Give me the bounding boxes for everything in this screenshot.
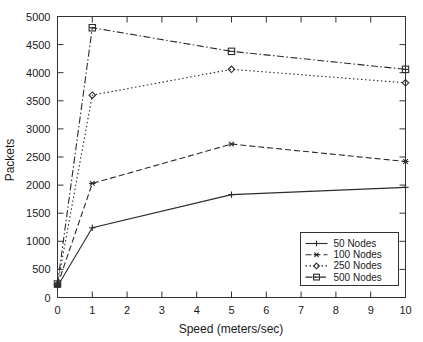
y-tick-label: 2500 (26, 151, 50, 163)
legend-label: 250 Nodes (334, 260, 382, 271)
x-tick-label: 1 (89, 304, 95, 316)
x-tick-label: 0 (54, 304, 60, 316)
y-tick-label: 1000 (26, 235, 50, 247)
chart-container: 0500100015002000250030003500400045005000… (0, 0, 423, 342)
x-tick-label: 8 (333, 304, 339, 316)
x-tick-label: 2 (124, 304, 130, 316)
chart-background (0, 0, 423, 342)
legend-label: 500 Nodes (334, 272, 382, 283)
x-tick-label: 3 (159, 304, 165, 316)
x-tick-label: 5 (228, 304, 234, 316)
y-tick-label: 5000 (26, 11, 50, 23)
y-tick-label: 500 (32, 263, 50, 275)
x-tick-label: 4 (194, 304, 200, 316)
x-tick-label: 9 (368, 304, 374, 316)
y-tick-label: 2000 (26, 179, 50, 191)
y-tick-label: 4000 (26, 67, 50, 79)
x-tick-label: 10 (399, 304, 411, 316)
legend-label: 100 Nodes (334, 249, 382, 260)
legend: 50 Nodes100 Nodes250 Nodes500 Nodes (301, 233, 399, 286)
y-tick-label: 1500 (26, 207, 50, 219)
y-tick-label: 3000 (26, 123, 50, 135)
x-axis-title: Speed (meters/sec) (179, 322, 284, 336)
x-tick-label: 7 (298, 304, 304, 316)
y-tick-label: 4500 (26, 39, 50, 51)
y-tick-label: 0 (44, 292, 50, 304)
y-tick-label: 3500 (26, 95, 50, 107)
y-axis-title: Packets (3, 139, 17, 182)
legend-label: 50 Nodes (334, 238, 377, 249)
line-chart: 0500100015002000250030003500400045005000… (0, 0, 423, 342)
x-tick-label: 6 (263, 304, 269, 316)
